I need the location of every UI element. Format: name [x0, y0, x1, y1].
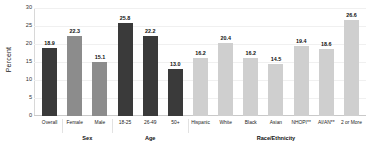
bar-slot[interactable]: 22.3 — [62, 8, 87, 116]
bar[interactable] — [344, 20, 359, 116]
y-tick-label: 10 — [16, 77, 32, 83]
bar-chart: Percent 302520151050 18.922.315.125.822.… — [0, 0, 368, 158]
bar[interactable] — [168, 69, 183, 116]
bar[interactable] — [118, 23, 133, 116]
x-group-label — [37, 133, 62, 147]
y-tick-label: 25 — [16, 23, 32, 29]
bar-value-label: 18.9 — [44, 41, 55, 46]
y-tick-label: 30 — [16, 5, 32, 11]
x-group-label: Race/Ethnicity — [188, 133, 364, 147]
bar-slot[interactable]: 20.4 — [213, 8, 238, 116]
bar[interactable] — [218, 43, 233, 116]
x-tick-label: 26-49 — [138, 118, 163, 132]
bar-value-label: 18.6 — [321, 42, 332, 47]
bar[interactable] — [42, 48, 57, 116]
bar-slot[interactable]: 14.5 — [263, 8, 288, 116]
x-tick-label: Overall — [37, 118, 62, 132]
x-tick-label: 2 or More — [339, 118, 364, 132]
bar-slot[interactable]: 18.6 — [314, 8, 339, 116]
x-axis-group-labels: SexAgeRace/Ethnicity — [35, 133, 366, 147]
y-tick-label: 5 — [16, 95, 32, 101]
y-axis-title-text: Percent — [6, 46, 13, 72]
x-tick-label: Male — [87, 118, 112, 132]
bar-slot[interactable]: 26.6 — [339, 8, 364, 116]
bar-value-label: 20.4 — [220, 36, 231, 41]
y-axis-tick-labels: 302520151050 — [16, 8, 32, 116]
x-tick-label: AI/AN** — [314, 118, 339, 132]
bar-value-label: 26.6 — [346, 13, 357, 18]
bar[interactable] — [143, 36, 158, 116]
x-tick-label: White — [213, 118, 238, 132]
bar-slot[interactable]: 15.1 — [87, 8, 112, 116]
bar-slot[interactable]: 13.0 — [163, 8, 188, 116]
bar-value-label: 19.4 — [296, 39, 307, 44]
bar[interactable] — [67, 36, 82, 116]
x-tick-label: Asian — [263, 118, 288, 132]
x-tick-label: 50+ — [163, 118, 188, 132]
bar-slot[interactable]: 25.8 — [112, 8, 137, 116]
bar-slot[interactable]: 18.9 — [37, 8, 62, 116]
bar[interactable] — [193, 58, 208, 116]
x-tick-label: 18-25 — [112, 118, 137, 132]
bar-value-label: 15.1 — [95, 55, 106, 60]
x-tick-label: Female — [62, 118, 87, 132]
bar[interactable] — [294, 46, 309, 116]
bar-value-label: 22.2 — [145, 29, 156, 34]
x-group-label: Sex — [62, 133, 112, 147]
x-tick-label: Black — [238, 118, 263, 132]
bar-slot[interactable]: 16.2 — [188, 8, 213, 116]
bar-slot[interactable]: 22.2 — [138, 8, 163, 116]
x-tick-label: NHOPI** — [289, 118, 314, 132]
bar-slot[interactable]: 19.4 — [289, 8, 314, 116]
bar-value-label: 16.2 — [195, 51, 206, 56]
y-tick-label: 20 — [16, 41, 32, 47]
bar-value-label: 13.0 — [170, 62, 181, 67]
bar-value-label: 16.2 — [246, 51, 257, 56]
bar-value-label: 25.8 — [120, 16, 131, 21]
bars-container: 18.922.315.125.822.213.016.220.416.214.5… — [35, 8, 366, 116]
bar[interactable] — [268, 64, 283, 116]
bar[interactable] — [243, 58, 258, 116]
bar-slot[interactable]: 16.2 — [238, 8, 263, 116]
bar-value-label: 14.5 — [271, 57, 282, 62]
y-axis-title: Percent — [2, 0, 16, 118]
bar-value-label: 22.3 — [69, 29, 80, 34]
bar[interactable] — [92, 62, 107, 116]
y-tick-label: 15 — [16, 59, 32, 65]
y-tick-label: 0 — [16, 113, 32, 119]
x-axis-category-labels: OverallFemaleMale18-2526-4950+HispanicWh… — [35, 118, 366, 132]
x-group-label: Age — [112, 133, 187, 147]
bar[interactable] — [319, 49, 334, 116]
x-tick-label: Hispanic — [188, 118, 213, 132]
